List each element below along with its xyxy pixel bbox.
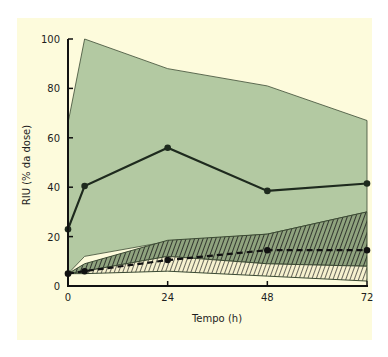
y-tick-label: 80 [47,83,60,94]
chart: 020406080100 RIU (% da dose) 0244872 Tem… [0,0,388,357]
y-axis-title: RIU (% da dose) [21,125,32,205]
data-point [164,257,171,264]
y-axis: 020406080100 RIU (% da dose) [21,34,73,292]
y-tick-label: 100 [41,34,60,45]
x-tick-label: 48 [261,292,274,303]
range-bands [68,39,367,281]
data-point [364,180,371,187]
y-tick-label: 20 [47,232,60,243]
data-point [81,268,88,275]
y-tick-label: 0 [54,281,60,292]
x-tick-label: 72 [361,292,374,303]
x-axis: 0244872 Tempo (h) [65,281,374,324]
y-tick-label: 40 [47,182,60,193]
data-point [264,188,271,195]
data-point [164,144,171,151]
data-point [81,183,88,190]
x-axis-title: Tempo (h) [191,313,242,324]
data-point [264,247,271,254]
x-tick-label: 0 [65,292,71,303]
x-tick-label: 24 [161,292,174,303]
data-point [364,247,371,254]
y-tick-label: 60 [47,133,60,144]
